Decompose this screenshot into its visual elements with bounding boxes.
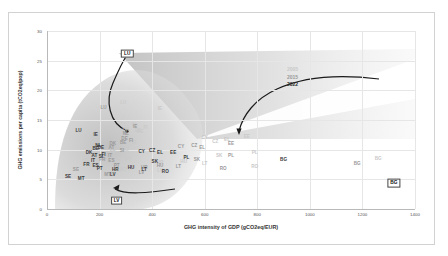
x-tick-label: 200 [96, 212, 103, 217]
data-point-ie-2005: IE [158, 107, 162, 112]
data-point-pt-2022: PT [97, 167, 103, 172]
data-point-se-2015: SE [73, 168, 79, 173]
data-point-cz-2005: CZ [212, 140, 218, 145]
data-point-pl-2015: PL [228, 153, 234, 158]
y-axis-line [47, 31, 48, 209]
data-point-bg-2022: BG [280, 158, 287, 163]
y-tick-label: 0 [40, 207, 42, 212]
x-tick-label: 800 [254, 212, 261, 217]
data-point-fi-2015: FI [129, 138, 133, 143]
data-point-ee-2022: EE [170, 150, 176, 155]
data-point-cz-2015: CZ [191, 143, 197, 148]
data-point-ro-2005: RO [251, 165, 258, 170]
data-point-pl-2005: PL [252, 151, 258, 156]
data-point-lv-2022: LV [110, 173, 116, 178]
annotation-box-lv: LV [111, 196, 123, 205]
data-point-se-2022: SE [65, 175, 71, 180]
data-point-fr-2022: FR [83, 163, 89, 168]
legend-item-2005: 2005 [287, 67, 298, 72]
data-point-ee-2005: EE [244, 135, 250, 140]
data-point-hu-2022: HU [128, 166, 135, 171]
data-point-cy-2015: CY [178, 144, 184, 149]
data-point-cy-2022: CY [138, 150, 144, 155]
annotation-box-bg: BG [387, 178, 400, 187]
data-point-bg-2015: BG [354, 162, 361, 167]
data-point-ro-2022: RO [162, 169, 169, 174]
legend: 200520152022 [287, 67, 298, 87]
x-axis-label: GHG intensity of GDP (gCO2eq/EUR) [184, 224, 278, 230]
plot-area [47, 31, 415, 209]
gridline-horizontal [47, 31, 415, 32]
data-point-be-2022: BE [92, 147, 98, 152]
data-point-mt-2022: MT [78, 176, 85, 181]
data-point-bg-2005: BG [375, 157, 382, 162]
gridline-horizontal [47, 120, 415, 121]
y-tick-label: 5 [40, 177, 42, 182]
data-point-fi-2005: FI [144, 126, 148, 131]
data-point-lt-2022: LT [142, 168, 147, 173]
y-tick-label: 25 [37, 58, 42, 63]
legend-item-2022: 2022 [287, 82, 298, 87]
gridline-vertical [415, 31, 416, 209]
data-point-si-2022: SI [99, 154, 103, 159]
data-point-cz-2022: CZ [149, 149, 155, 154]
y-tick-label: 10 [37, 147, 42, 152]
y-axis-label: GHG emissions per capita (tCO2eq/pop) [17, 71, 23, 170]
chart-frame: GHG emissions per capita (tCO2eq/pop) GH… [8, 12, 435, 245]
data-point-pl-2022: PL [183, 156, 189, 161]
data-point-el-2015: EL [199, 146, 205, 151]
data-point-lu-2015: LU [100, 106, 106, 111]
legend-item-2015: 2015 [287, 75, 298, 80]
data-point-sk-2005: SK [216, 154, 222, 159]
y-tick-label: 15 [37, 118, 42, 123]
data-point-lt-2005: LT [202, 162, 207, 167]
data-point-ie-2015: IE [133, 124, 137, 129]
data-point-si-2015: SI [120, 149, 124, 154]
data-point-ee-2015: EE [228, 141, 234, 146]
x-tick-label: 600 [201, 212, 208, 217]
gridline-horizontal [47, 179, 415, 180]
gridline-horizontal [47, 90, 415, 91]
x-tick-label: 1200 [358, 212, 368, 217]
y-tick-label: 30 [37, 29, 42, 34]
data-point-cy-2005: CY [202, 136, 208, 141]
data-point-lu-2005: LU [120, 101, 126, 106]
data-point-lt-2015: LT [176, 165, 181, 170]
data-point-el-2022: EL [157, 151, 163, 156]
data-point-at-2015: AT [108, 146, 114, 151]
x-tick-label: 0 [46, 212, 48, 217]
x-tick-label: 1000 [305, 212, 315, 217]
data-point-ro-2015: RO [220, 167, 227, 172]
data-point-sk-2015: SK [194, 158, 200, 163]
data-point-mt-2005: MT [120, 168, 127, 173]
x-tick-label: 1400 [410, 212, 420, 217]
x-axis-line [47, 209, 415, 210]
data-point-be-2015: BE [120, 140, 126, 145]
data-point-sk-2022: SK [152, 160, 158, 165]
data-point-ie-2022: IE [93, 133, 97, 138]
gridline-horizontal [47, 61, 415, 62]
x-tick-label: 400 [148, 212, 155, 217]
y-tick-label: 20 [37, 88, 42, 93]
data-point-lu-2022: LU [75, 128, 81, 133]
data-point-pt-2005: PT [126, 158, 132, 163]
annotation-box-lu: LU [121, 49, 133, 58]
